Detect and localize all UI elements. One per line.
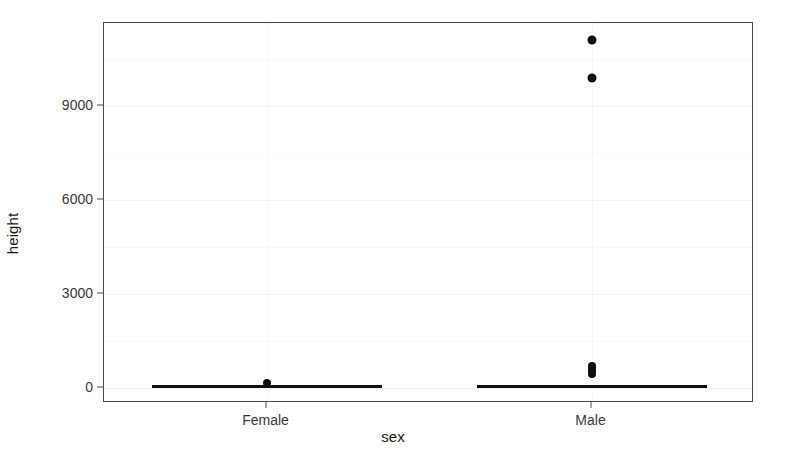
gridline-major (104, 106, 752, 107)
y-tick-label: 9000 (35, 97, 93, 113)
gridline-minor (104, 59, 752, 60)
y-tick-label: 0 (35, 379, 93, 395)
x-axis-title: sex (0, 428, 786, 445)
outlier-point (587, 36, 596, 45)
x-tick-mark (590, 402, 591, 408)
y-tick-label: 6000 (35, 191, 93, 207)
gridline-vertical (267, 23, 268, 401)
gridline-major (104, 294, 752, 295)
boxplot-figure: height 0300060009000 FemaleMale sex (0, 0, 786, 467)
outlier-point (587, 73, 596, 82)
x-tick-mark (265, 402, 266, 408)
gridline-minor (104, 247, 752, 248)
y-tick-label: 3000 (35, 285, 93, 301)
plot-panel-inner (104, 23, 752, 401)
outlier-point (263, 379, 271, 387)
y-axis-title: height (0, 0, 26, 467)
x-tick-label: Male (575, 412, 605, 428)
x-axis-title-text: sex (381, 428, 405, 445)
gridline-minor (104, 153, 752, 154)
plot-panel (103, 22, 753, 402)
gridline-major (104, 388, 752, 389)
y-axis-title-text: height (5, 213, 22, 254)
gridline-major (104, 200, 752, 201)
outlier-point (588, 362, 596, 370)
gridline-minor (104, 341, 752, 342)
x-tick-label: Female (242, 412, 289, 428)
median-line (477, 385, 707, 387)
